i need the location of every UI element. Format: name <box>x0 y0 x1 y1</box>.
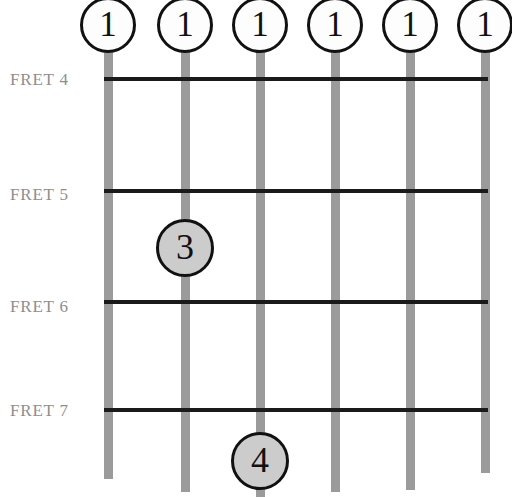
fret-5 <box>104 189 488 193</box>
open-marker-string-3-label: 1 <box>251 7 269 42</box>
finger-marker-4-label: 4 <box>251 442 269 478</box>
fret-label-7: FRET 7 <box>10 401 69 421</box>
finger-marker-3[interactable]: 3 <box>156 219 214 277</box>
open-marker-string-1[interactable]: 1 <box>80 0 136 53</box>
open-marker-string-4[interactable]: 1 <box>307 0 363 53</box>
fret-6 <box>104 300 488 304</box>
open-marker-string-2[interactable]: 1 <box>157 0 213 53</box>
open-marker-string-1-label: 1 <box>99 7 117 42</box>
string-6 <box>481 24 490 473</box>
fret-label-5: FRET 5 <box>10 185 69 205</box>
open-marker-string-5[interactable]: 1 <box>382 0 438 53</box>
open-marker-string-2-label: 1 <box>176 7 194 42</box>
fret-7 <box>104 408 488 412</box>
open-marker-string-6-label: 1 <box>476 7 494 42</box>
open-marker-string-3[interactable]: 1 <box>232 0 288 53</box>
finger-marker-3-label: 3 <box>176 229 194 265</box>
chord-diagram: FRET 4FRET 5FRET 6FRET 7 11111134 <box>0 0 512 497</box>
string-5 <box>406 24 415 490</box>
string-3 <box>256 24 265 497</box>
string-4 <box>331 24 340 492</box>
fret-label-6: FRET 6 <box>10 297 69 317</box>
open-marker-string-5-label: 1 <box>401 7 419 42</box>
open-marker-string-6[interactable]: 1 <box>457 0 512 53</box>
finger-marker-4[interactable]: 4 <box>231 432 289 490</box>
fret-4 <box>104 77 488 81</box>
fret-label-4: FRET 4 <box>10 70 69 90</box>
open-marker-string-4-label: 1 <box>326 7 344 42</box>
